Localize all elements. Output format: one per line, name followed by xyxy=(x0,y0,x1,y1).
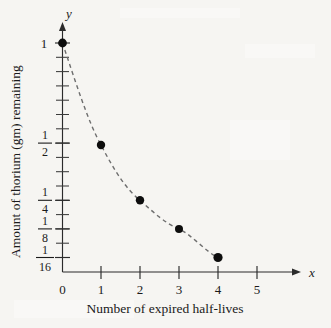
data-points xyxy=(58,39,223,263)
x-tick-label-0: 0 xyxy=(59,282,66,297)
y-tick-label-1: 1 xyxy=(41,36,48,51)
x-axis-title: Number of expired half-lives xyxy=(86,301,243,316)
y-tick-label-one-half: 1 2 xyxy=(38,128,52,159)
data-point xyxy=(213,253,222,262)
fraction-numerator: 1 xyxy=(42,214,48,228)
decay-curve xyxy=(63,43,219,258)
x-tick-label-3: 3 xyxy=(176,282,183,297)
data-point xyxy=(175,225,183,233)
fraction-numerator: 1 xyxy=(42,128,48,142)
fraction-denominator: 2 xyxy=(42,145,48,159)
y-axis-variable-label: y xyxy=(64,6,72,21)
half-life-decay-chart: 1 1 2 1 4 1 8 1 16 y Amount of thorium ( xyxy=(0,0,331,328)
fraction-numerator: 1 xyxy=(42,185,48,199)
x-tick-label-1: 1 xyxy=(98,282,105,297)
x-axis xyxy=(63,269,302,276)
fraction-numerator: 1 xyxy=(42,243,48,257)
x-axis-arrowhead xyxy=(292,269,301,276)
data-point xyxy=(136,196,144,204)
data-point xyxy=(97,141,105,149)
x-axis-variable-label: x xyxy=(308,265,315,280)
y-axis xyxy=(59,22,66,272)
chart-figure: 1 1 2 1 4 1 8 1 16 y Amount of thorium ( xyxy=(0,0,331,328)
y-axis-arrowhead xyxy=(59,22,66,31)
data-point xyxy=(58,39,67,48)
y-axis-title: Amount of thorium (gm) remaining xyxy=(8,65,23,258)
y-tick-label-one-quarter: 1 4 xyxy=(38,185,52,216)
y-tick-label-one-eighth: 1 8 xyxy=(38,214,52,245)
y-tick-label-one-sixteenth: 1 16 xyxy=(36,243,54,274)
fraction-denominator: 16 xyxy=(39,260,51,274)
x-tick-label-4: 4 xyxy=(215,282,222,297)
x-tick-label-5: 5 xyxy=(254,282,261,297)
x-tick-label-2: 2 xyxy=(137,282,144,297)
